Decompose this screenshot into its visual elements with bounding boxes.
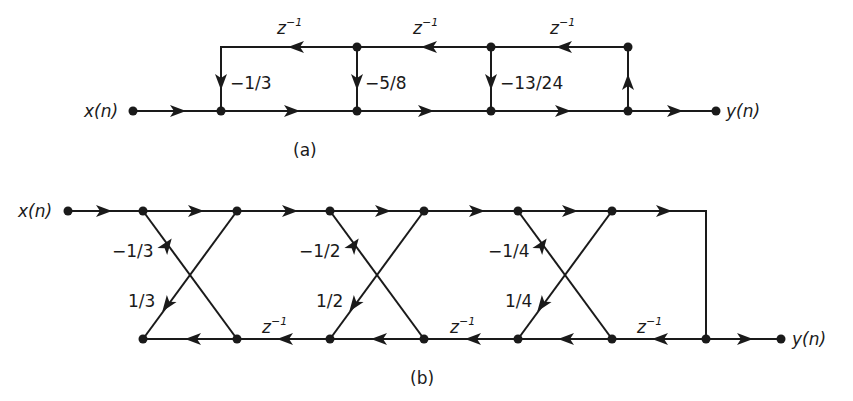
coefficient-label: 1/4 [505,291,532,311]
coefficient-label: −1/3 [112,241,154,261]
coefficient-label: 1/3 [128,291,155,311]
input-label: x(n) [83,101,118,121]
output-label: y(n) [725,101,760,121]
feedback-path-a [221,47,628,111]
caption-a: (a) [293,140,317,160]
node [420,207,429,216]
coefficient-label: −5/8 [365,73,407,93]
input-node [64,207,73,216]
node [624,107,633,116]
input-label: x(n) [17,201,52,221]
output-node [777,335,786,344]
node [514,335,523,344]
coefficient-label: −1/4 [488,241,530,261]
coefficient-label: −1/3 [230,73,272,93]
node [139,335,148,344]
nodes-b [64,207,786,344]
node [217,107,226,116]
delay-label: z−1 [449,315,475,337]
delay-label: z−1 [261,315,287,337]
labels-b: x(n) y(n) −1/3 1/3 −1/2 1/2 −1/4 1/4 z−1… [17,201,826,388]
node [702,335,711,344]
delay-label: z−1 [549,16,575,38]
coefficient-label: −1/2 [299,241,341,261]
upper-path-b [68,211,706,339]
output-label: y(n) [791,329,826,349]
node [608,335,617,344]
node [624,43,633,52]
node [139,207,148,216]
node [326,207,335,216]
input-node [129,107,138,116]
node [487,43,496,52]
output-node [712,107,721,116]
node [487,107,496,116]
node [608,207,617,216]
signal-flow-diagrams: x(n) y(n) −1/3 −5/8 −13/24 z−1 z−1 z−1 (… [0,0,853,401]
node [353,107,362,116]
node [233,335,242,344]
diagram-b [68,211,781,339]
caption-b: (b) [410,368,434,388]
coefficient-label: −13/24 [500,73,563,93]
node [233,207,242,216]
node [326,335,335,344]
node [420,335,429,344]
node [353,43,362,52]
node [514,207,523,216]
delay-label: z−1 [412,16,438,38]
delay-label: z−1 [276,16,302,38]
labels-a: x(n) y(n) −1/3 −5/8 −13/24 z−1 z−1 z−1 (… [83,16,760,160]
delay-label: z−1 [636,315,662,337]
coefficient-label: 1/2 [316,291,343,311]
